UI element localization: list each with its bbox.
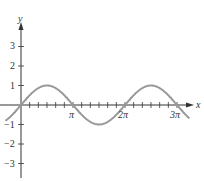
y-axis-label: y <box>17 13 23 24</box>
tick-2pi: 2π <box>118 109 129 120</box>
tick-ym2: −2 <box>4 138 15 149</box>
tick-ym1: −1 <box>4 119 15 130</box>
tick-pi: π <box>69 109 75 120</box>
tick-y3: 3 <box>10 40 15 51</box>
x-axis-label: x <box>195 99 201 110</box>
x-arrow-icon <box>186 103 194 108</box>
tick-y2: 2 <box>10 60 15 71</box>
tick-3pi: 3π <box>169 109 181 120</box>
tick-ym3: −3 <box>4 158 15 169</box>
chart: y x π 2π 3π 3 2 1 −1 −2 −3 <box>0 0 204 181</box>
tick-y1: 1 <box>10 80 15 91</box>
